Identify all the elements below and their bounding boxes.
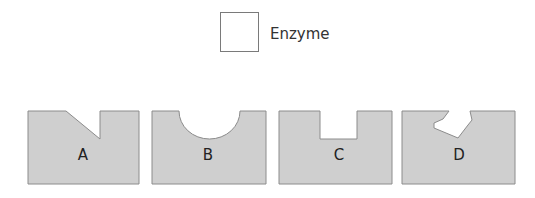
substrate-a: A bbox=[28, 111, 139, 184]
substrate-shapes: A B C D bbox=[0, 0, 535, 198]
substrate-b-label: B bbox=[203, 146, 213, 164]
substrate-c: C bbox=[279, 111, 392, 184]
substrate-d: D bbox=[402, 111, 515, 184]
substrate-b: B bbox=[152, 111, 266, 184]
substrate-d-label: D bbox=[453, 146, 465, 164]
substrate-c-label: C bbox=[334, 146, 344, 164]
substrate-a-label: A bbox=[78, 146, 89, 164]
